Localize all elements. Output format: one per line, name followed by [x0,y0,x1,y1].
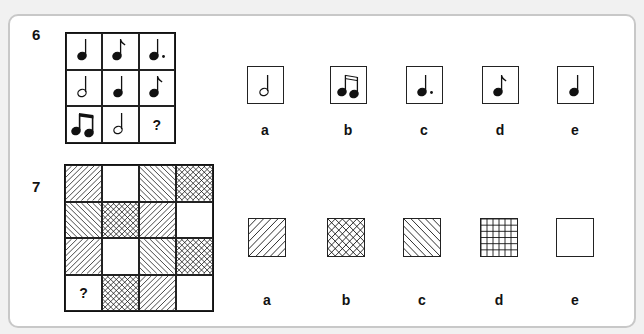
forward-diagonal-hatch [140,203,175,238]
matrix-cell [139,33,175,70]
crosshatch-hatch [103,203,138,238]
matrix-cell-forward-diagonal [139,202,176,239]
option-c[interactable] [406,66,443,104]
quarter-note-icon [69,34,99,68]
matrix-cell [139,70,175,107]
matrix-cell-blank [102,238,139,275]
forward-diagonal-hatch [249,219,285,256]
beamed-eighth-notes-icon [69,108,99,142]
matrix-cell-back-diagonal [139,238,176,275]
option-label: d [489,292,509,308]
option-label: d [490,122,510,138]
matrix-cell [102,33,138,70]
quarter-note-icon [105,71,135,105]
back-diagonal-hatch [140,239,175,274]
half-note-icon [251,70,281,100]
forward-diagonal-hatch [140,276,175,311]
beamed-sixteenth-notes-icon [334,70,364,100]
question-number-6: 6 [32,26,40,43]
half-note-icon [105,108,135,142]
option-label: b [338,122,358,138]
quarter-note-icon [561,70,591,100]
option-c[interactable] [403,218,441,257]
puzzle-card: 6 ? abcde 7 ? abcde [8,14,636,328]
option-label: e [565,292,585,308]
half-note-icon [69,71,99,105]
matrix-cell-forward-diagonal [139,275,176,312]
missing-cell-question-mark: ? [153,117,162,133]
back-diagonal-hatch [140,166,175,201]
crosshatch-hatch [177,166,212,201]
matrix-cell-blank [176,275,213,312]
option-e[interactable] [557,66,594,104]
back-diagonal-hatch [66,203,101,238]
option-label: a [257,292,277,308]
matrix-cell-forward-diagonal [65,165,102,202]
matrix-cell-crosshatch [176,165,213,202]
dotted-quarter-note-icon [142,34,172,68]
crosshatch-hatch [103,276,138,311]
option-d[interactable] [480,218,518,257]
dotted-quarter-note-icon [410,70,440,100]
crosshatch-hatch [177,239,212,274]
question-number-7: 7 [32,178,40,195]
option-label: c [414,122,434,138]
eighth-note-icon [105,34,135,68]
matrix-cell-crosshatch [176,238,213,275]
matrix-cell [66,70,102,107]
matrix-cell-missing: ? [65,275,102,312]
option-label: c [412,292,432,308]
matrix-cell-crosshatch [102,275,139,312]
matrix-cell [66,33,102,70]
option-label: e [565,122,585,138]
option-e[interactable] [556,218,594,257]
option-a[interactable] [248,218,286,257]
eighth-note-icon [486,70,516,100]
back-diagonal-hatch [404,219,440,256]
crosshatch-hatch [328,219,364,256]
matrix-cell [102,106,138,143]
option-d[interactable] [482,66,519,104]
pattern-matrix: ? [64,164,214,312]
option-label: b [336,292,356,308]
grid-hatch [481,219,517,256]
matrix-cell-forward-diagonal [65,238,102,275]
option-label: a [255,122,275,138]
eighth-note-icon [142,71,172,105]
matrix-cell-back-diagonal [139,165,176,202]
option-b[interactable] [327,218,365,257]
matrix-cell-blank [102,165,139,202]
matrix-cell-blank [176,202,213,239]
missing-cell-question-mark: ? [79,285,88,301]
option-a[interactable] [247,66,284,104]
forward-diagonal-hatch [66,166,101,201]
matrix-cell-back-diagonal [65,202,102,239]
matrix-cell: ? [139,106,175,143]
option-b[interactable] [330,66,367,104]
matrix-cell [102,70,138,107]
matrix-cell-crosshatch [102,202,139,239]
forward-diagonal-hatch [66,239,101,274]
note-matrix: ? [65,32,176,144]
matrix-cell [66,106,102,143]
